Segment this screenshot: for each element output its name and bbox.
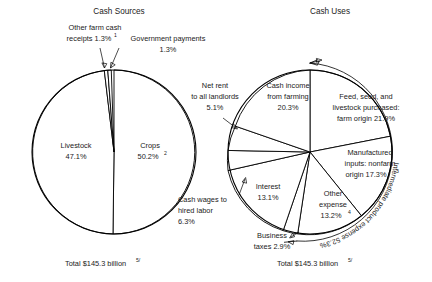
left-pie-title: Cash Sources [93,7,144,16]
label-business-taxes: Business taxes 2.9% [254,231,291,251]
other-expense-line2: expense [319,200,347,209]
label-net-rent-landlords: Net rent to all landlords 5.1% [191,81,239,112]
other-farm-cash-receipts-superscript: 1 [114,32,117,38]
cash-wages-line2: hired labor [178,206,213,215]
left-pie-wedges [32,70,196,234]
cash-wages-line3: 6.3% [178,217,195,226]
net-rent-line1: Net rent [202,81,228,90]
label-government-payments: Government payments 1.3% [131,34,206,54]
crops-line2: 50.2% [138,152,159,161]
interest-line1: Interest [256,182,281,191]
livestock-line1: Livestock [61,141,92,150]
manufactured-line2: inputs: nonfarm [345,159,396,168]
cash-wages-line1: Cash wages to [178,195,227,204]
label-cash-wages-hired-labor: Cash wages to hired labor 6.3% [178,195,227,226]
crops-superscript: 2 [164,150,167,156]
cash-income-line3: 20.3% [278,103,299,112]
other-farm-cash-receipts-line2: receipts 1.3% [67,34,112,43]
other-farm-cash-receipts-line1: Other farm cash [69,23,122,32]
right-total-label: Total $145.3 billion [277,259,338,268]
intermediate-product-expense-value: 52.3% [319,235,342,250]
crops-line1: Crops [140,141,160,150]
farm-cash-flow-pie-figure: Cash Sources Cash Uses Other farm cash r… [0,0,432,282]
cash-income-line1: Cash income [266,81,309,90]
other-expense-line3: 13.2% [321,211,342,220]
manufactured-line3: origin 17.3% [345,170,387,179]
business-taxes-line2: taxes 2.9% [254,242,291,251]
feed-seed-line2: livestock purchased: [333,103,400,112]
label-feed-seed-livestock: Feed, seed, and livestock purchased: far… [333,92,400,123]
right-total-superscript: 5/ [348,257,353,263]
pie-chart-svg: Cash Sources Cash Uses Other farm cash r… [0,0,432,282]
interest-line2: 13.1% [258,193,279,202]
right-pie-total: Total $145.3 billion 5/ [277,257,353,268]
label-other-farm-cash-receipts: Other farm cash receipts 1.3% 1 [67,23,122,43]
cash-income-line2: from farming [267,92,308,101]
business-taxes-line1: Business [257,231,287,240]
left-pie-total: Total $145.3 billion 5/ [65,257,141,268]
government-payments-line1: Government payments [131,34,206,43]
manufactured-line1: Manufactured [347,148,392,157]
other-expense-superscript: 4 [348,209,351,215]
net-rent-line3: 5.1% [207,103,224,112]
left-pie-leader-lines [100,48,119,68]
right-pie-title: Cash Uses [310,7,350,16]
livestock-line2: 47.1% [66,152,87,161]
government-payments-line2: 1.3% [160,45,177,54]
feed-seed-line1: Feed, seed, and [339,92,392,101]
left-total-superscript: 5/ [136,257,141,263]
left-total-label: Total $145.3 billion [65,259,126,268]
other-expense-line1: Other [324,189,343,198]
feed-seed-line3: farm origin 21.9% [337,114,395,123]
net-rent-line2: to all landlords [191,92,239,101]
